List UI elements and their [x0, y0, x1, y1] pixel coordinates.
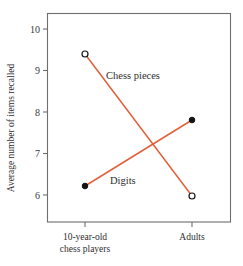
series-line-digits — [85, 120, 192, 186]
x-axis-category-labels: 10-year-old chess players Adults — [60, 232, 205, 254]
x-label-adults: Adults — [179, 232, 205, 242]
x-label-children-line1: 10-year-old — [63, 232, 107, 242]
series-annotation-chess-pieces: Chess pieces — [106, 70, 160, 81]
y-axis-ticks — [43, 29, 48, 195]
y-tick-label-6: 6 — [35, 190, 40, 201]
y-tick-label-8: 8 — [35, 107, 40, 118]
y-tick-label-10: 10 — [30, 24, 40, 35]
line-chart: 10 9 8 7 6 Average number of items recal… — [0, 0, 243, 266]
y-tick-label-7: 7 — [35, 148, 40, 159]
datapoint-chess-pieces-adults — [189, 193, 195, 199]
y-axis-tick-labels: 10 9 8 7 6 — [30, 24, 40, 201]
plot-frame — [48, 14, 231, 223]
datapoint-digits-children — [82, 183, 88, 189]
chart-figure: 10 9 8 7 6 Average number of items recal… — [0, 0, 243, 266]
x-label-children-line2: chess players — [60, 244, 111, 254]
datapoint-digits-adults — [189, 117, 195, 123]
datapoint-chess-pieces-children — [82, 51, 88, 57]
x-axis-ticks — [85, 222, 192, 227]
series-annotation-digits: Digits — [110, 175, 136, 186]
y-axis-title: Average number of items recalled — [6, 63, 16, 192]
y-tick-label-9: 9 — [35, 65, 40, 76]
